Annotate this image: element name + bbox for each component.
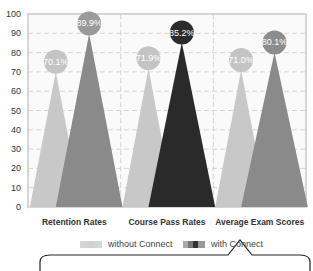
y-tick-label: 70 [11, 67, 21, 77]
y-tick-label: 50 [11, 106, 21, 116]
triangle-bar-chart: 0102030405060708090100 70.1%89.9%71.9%85… [0, 0, 313, 271]
legend-label-without: without Connect [108, 239, 173, 249]
value-label-with: 80.1% [262, 37, 288, 47]
y-axis: 0102030405060708090100 [6, 9, 21, 212]
y-tick-label: 30 [11, 144, 21, 154]
legend-item-without: without Connect [80, 239, 173, 249]
legend-item-with: with Connect [183, 239, 263, 249]
value-label-without: 70.1% [43, 57, 69, 67]
y-tick-label: 80 [11, 48, 21, 58]
value-label-with: 89.9% [76, 18, 102, 28]
y-tick-label: 40 [11, 125, 21, 135]
y-tick-label: 20 [11, 163, 21, 173]
legend-swatch-without [80, 241, 102, 248]
legend-label-with: with Connect [211, 239, 263, 249]
y-tick-label: 10 [11, 183, 21, 193]
x-category-label: Average Exam Scores [215, 217, 304, 227]
value-label-without: 71.9% [136, 53, 162, 63]
legend-swatch-with [183, 241, 205, 248]
value-label-with: 85.2% [169, 28, 195, 38]
x-category-label: Course Pass Rates [128, 217, 205, 227]
value-label-without: 71.0% [228, 55, 254, 65]
y-tick-label: 90 [11, 28, 21, 38]
x-category-label: Retention Rates [42, 217, 107, 227]
y-tick-label: 0 [16, 202, 21, 212]
x-axis-labels: Retention RatesCourse Pass RatesAverage … [42, 217, 304, 227]
y-tick-label: 100 [6, 9, 21, 19]
y-tick-label: 60 [11, 86, 21, 96]
